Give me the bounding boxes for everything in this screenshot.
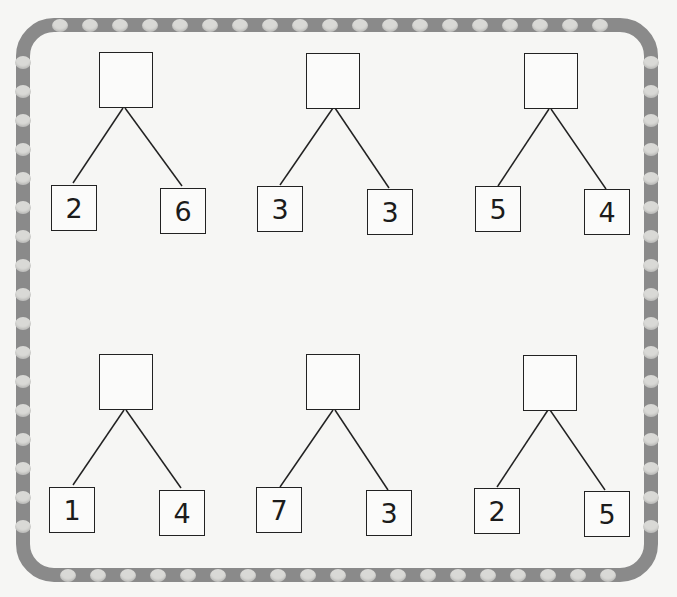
whole-answer-box[interactable]: [306, 53, 360, 109]
border-dot-icon: [120, 569, 136, 582]
border-dot-icon: [60, 569, 76, 582]
border-dot-icon: [472, 19, 488, 32]
border-dot-icon: [292, 19, 308, 32]
border-dot-icon: [532, 19, 548, 32]
border-dot-icon: [420, 569, 436, 582]
border-dot-icon: [15, 462, 31, 475]
border-dot-icon: [360, 569, 376, 582]
border-dot-icon: [15, 230, 31, 243]
border-dot-icon: [442, 19, 458, 32]
border-dot-icon: [15, 317, 31, 330]
border-dot-icon: [262, 19, 278, 32]
border-dot-icon: [15, 114, 31, 127]
border-dot-icon: [52, 19, 68, 32]
part-box-right: 5: [584, 491, 630, 537]
border-dot-icon: [643, 462, 659, 475]
border-dot-icon: [412, 19, 428, 32]
border-dot-icon: [202, 19, 218, 32]
border-dot-icon: [142, 19, 158, 32]
border-dot-icon: [15, 259, 31, 272]
border-dot-icon: [643, 346, 659, 359]
border-dot-icon: [15, 375, 31, 388]
border-dot-icon: [562, 19, 578, 32]
border-dot-icon: [643, 375, 659, 388]
border-dot-icon: [382, 19, 398, 32]
number-bond-2: 3 3: [256, 52, 426, 222]
border-dot-icon: [540, 569, 556, 582]
border-dot-icon: [15, 491, 31, 504]
border-dot-icon: [15, 346, 31, 359]
border-dot-icon: [15, 433, 31, 446]
border-dot-icon: [15, 520, 31, 533]
number-bond-4: 1 4: [46, 354, 216, 524]
whole-answer-box[interactable]: [99, 52, 153, 108]
border-dot-icon: [643, 230, 659, 243]
border-dot-icon: [15, 143, 31, 156]
border-dot-icon: [172, 19, 188, 32]
border-dot-icon: [90, 569, 106, 582]
border-dot-icon: [150, 569, 166, 582]
part-box-left: 2: [51, 185, 97, 231]
part-box-left: 1: [49, 487, 95, 533]
border-dot-icon: [600, 569, 616, 582]
border-dot-icon: [330, 569, 346, 582]
border-dot-icon: [643, 201, 659, 214]
part-box-right: 4: [584, 189, 630, 235]
border-dot-icon: [390, 569, 406, 582]
border-dot-icon: [300, 569, 316, 582]
border-dot-icon: [570, 569, 586, 582]
part-box-right: 3: [367, 189, 413, 235]
whole-answer-box[interactable]: [523, 355, 577, 411]
whole-answer-box[interactable]: [524, 53, 578, 109]
border-dot-icon: [210, 569, 226, 582]
number-bond-3: 5 4: [474, 52, 644, 222]
border-dot-icon: [322, 19, 338, 32]
border-dot-icon: [82, 19, 98, 32]
border-dot-icon: [112, 19, 128, 32]
whole-answer-box[interactable]: [306, 354, 360, 410]
whole-answer-box[interactable]: [99, 354, 153, 410]
border-dot-icon: [240, 569, 256, 582]
border-dot-icon: [643, 85, 659, 98]
part-box-left: 5: [475, 186, 521, 232]
border-dot-icon: [15, 288, 31, 301]
border-dot-icon: [480, 569, 496, 582]
border-dot-icon: [643, 404, 659, 417]
border-dot-icon: [15, 172, 31, 185]
border-dot-icon: [643, 259, 659, 272]
number-bond-6: 2 5: [474, 354, 644, 524]
border-dot-icon: [643, 143, 659, 156]
border-dot-icon: [592, 19, 608, 32]
part-box-left: 2: [474, 488, 520, 534]
part-box-right: 3: [366, 490, 412, 536]
border-dot-icon: [352, 19, 368, 32]
border-dot-icon: [643, 172, 659, 185]
border-dot-icon: [643, 56, 659, 69]
part-box-right: 6: [160, 188, 206, 234]
part-box-left: 7: [256, 487, 302, 533]
border-dot-icon: [643, 288, 659, 301]
border-dot-icon: [15, 56, 31, 69]
border-dot-icon: [643, 114, 659, 127]
border-dot-icon: [15, 404, 31, 417]
border-dot-icon: [643, 491, 659, 504]
part-box-right: 4: [159, 490, 205, 536]
border-dot-icon: [15, 85, 31, 98]
border-dot-icon: [502, 19, 518, 32]
border-dot-icon: [15, 201, 31, 214]
number-bond-1: 2 6: [46, 52, 216, 222]
border-dot-icon: [643, 433, 659, 446]
border-dot-icon: [643, 520, 659, 533]
border-dot-icon: [643, 317, 659, 330]
border-dot-icon: [450, 569, 466, 582]
border-dot-icon: [180, 569, 196, 582]
part-box-left: 3: [257, 186, 303, 232]
border-dot-icon: [270, 569, 286, 582]
border-dot-icon: [232, 19, 248, 32]
border-dot-icon: [510, 569, 526, 582]
number-bond-5: 7 3: [256, 354, 426, 524]
